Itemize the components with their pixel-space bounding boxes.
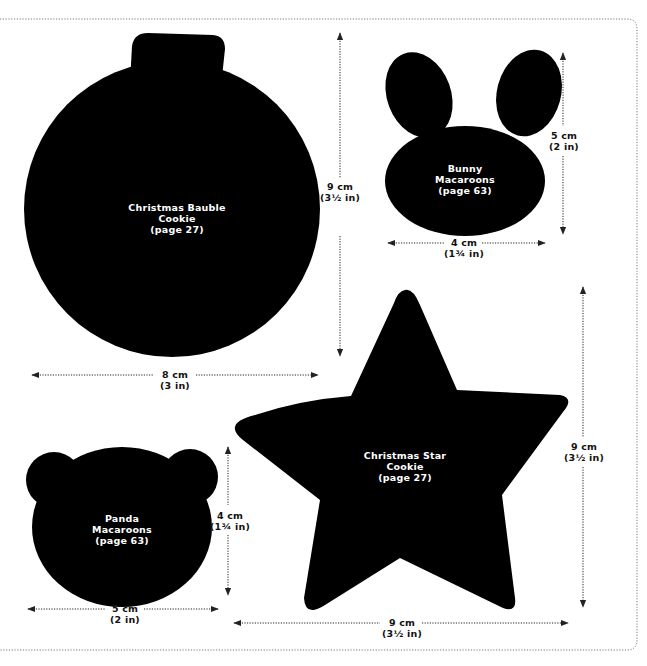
star-height-label: 9 cm (3½ in) bbox=[556, 441, 612, 463]
bauble-shape bbox=[24, 33, 320, 357]
bunny-height-label: 5 cm (2 in) bbox=[542, 130, 586, 152]
bauble-subtitle: Cookie bbox=[112, 213, 242, 224]
bunny-name-label: Bunny Macaroons (page 63) bbox=[425, 163, 505, 196]
bunny-page-ref: (page 63) bbox=[425, 185, 505, 196]
cookie-templates-page: Christmas Bauble Cookie (page 27) 9 cm (… bbox=[0, 0, 647, 666]
bunny-title: Bunny bbox=[425, 163, 505, 174]
star-subtitle: Cookie bbox=[350, 461, 460, 472]
templates-artwork bbox=[0, 0, 647, 666]
panda-title: Panda bbox=[82, 513, 162, 524]
panda-name-label: Panda Macaroons (page 63) bbox=[82, 513, 162, 546]
panda-height-label: 4 cm (1¾ in) bbox=[202, 510, 258, 532]
bauble-page-ref: (page 27) bbox=[112, 224, 242, 235]
panda-subtitle: Macaroons bbox=[82, 524, 162, 535]
bunny-subtitle: Macaroons bbox=[425, 174, 505, 185]
star-page-ref: (page 27) bbox=[350, 472, 460, 483]
star-name-label: Christmas Star Cookie (page 27) bbox=[350, 450, 460, 483]
star-width-label: 9 cm (3½ in) bbox=[372, 617, 432, 639]
panda-page-ref: (page 63) bbox=[82, 535, 162, 546]
panda-width-label: 5 cm (2 in) bbox=[97, 603, 153, 625]
bunny-width-label: 4 cm (1¾ in) bbox=[436, 237, 492, 259]
star-title: Christmas Star bbox=[350, 450, 460, 461]
bauble-width-label: 8 cm (3 in) bbox=[145, 369, 205, 391]
bauble-height-label: 9 cm (3½ in) bbox=[312, 181, 368, 203]
bauble-name-label: Christmas Bauble Cookie (page 27) bbox=[112, 202, 242, 235]
bauble-title: Christmas Bauble bbox=[112, 202, 242, 213]
